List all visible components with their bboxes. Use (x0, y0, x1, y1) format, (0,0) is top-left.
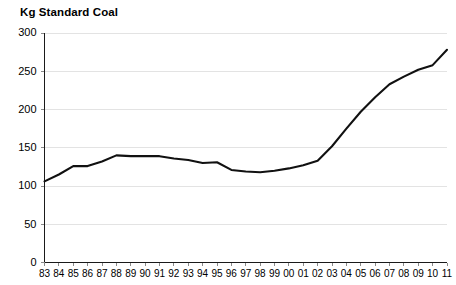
y-axis-tick-label: 150 (18, 141, 36, 153)
y-axis-tick-label: 200 (18, 103, 36, 115)
x-axis-tick-label: 90 (140, 268, 152, 279)
x-axis-tick-label: 83 (39, 268, 51, 279)
x-axis-tick-label: 01 (298, 268, 310, 279)
x-axis-tick-label: 88 (111, 268, 123, 279)
x-axis-tick-label: 11 (442, 268, 453, 279)
x-axis-tick-label: 09 (413, 268, 425, 279)
x-axis-tick-label: 97 (240, 268, 252, 279)
chart-plot: 050100150200250300 838485868788899091929… (0, 0, 456, 285)
x-axis-tick-label: 99 (269, 268, 281, 279)
x-axis-tick-label: 89 (125, 268, 137, 279)
x-axis-tick-labels: 8384858687888990919293949596979899000102… (39, 268, 453, 279)
x-axis-tick-label: 95 (211, 268, 223, 279)
x-axis-tick-label: 04 (341, 268, 353, 279)
x-axis-tick-label: 00 (283, 268, 295, 279)
y-axis-tick-label: 0 (30, 256, 36, 268)
y-axis-tick-label: 300 (18, 26, 36, 38)
y-axis-tick-labels: 050100150200250300 (18, 26, 36, 268)
y-axis-tick-label: 50 (24, 218, 36, 230)
x-axis-tick-label: 87 (96, 268, 108, 279)
y-axis-tick-label: 100 (18, 179, 36, 191)
x-axis-tick-label: 98 (255, 268, 267, 279)
x-axis-tick-label: 91 (154, 268, 166, 279)
x-axis-tick-label: 92 (168, 268, 180, 279)
chart-container: Kg Standard Coal 050100150200250300 8384… (0, 0, 456, 285)
x-axis-tick-label: 07 (384, 268, 396, 279)
x-axis-tick-label: 86 (82, 268, 94, 279)
gridlines-group (45, 33, 448, 224)
x-axis-tick-label: 94 (197, 268, 209, 279)
x-axis-tick-label: 05 (355, 268, 367, 279)
data-series-line (45, 50, 448, 182)
x-axis-tick-label: 03 (326, 268, 338, 279)
x-axis-tick-label: 85 (68, 268, 80, 279)
x-axis-tick-label: 06 (370, 268, 382, 279)
x-axis-tick-label: 84 (53, 268, 65, 279)
x-axis-tick-label: 08 (398, 268, 410, 279)
y-axis-tick-label: 250 (18, 65, 36, 77)
x-axis-tick-label: 93 (183, 268, 195, 279)
x-axis-tick-label: 02 (312, 268, 324, 279)
x-axis-tick-label: 96 (226, 268, 238, 279)
x-axis-tick-label: 10 (427, 268, 439, 279)
